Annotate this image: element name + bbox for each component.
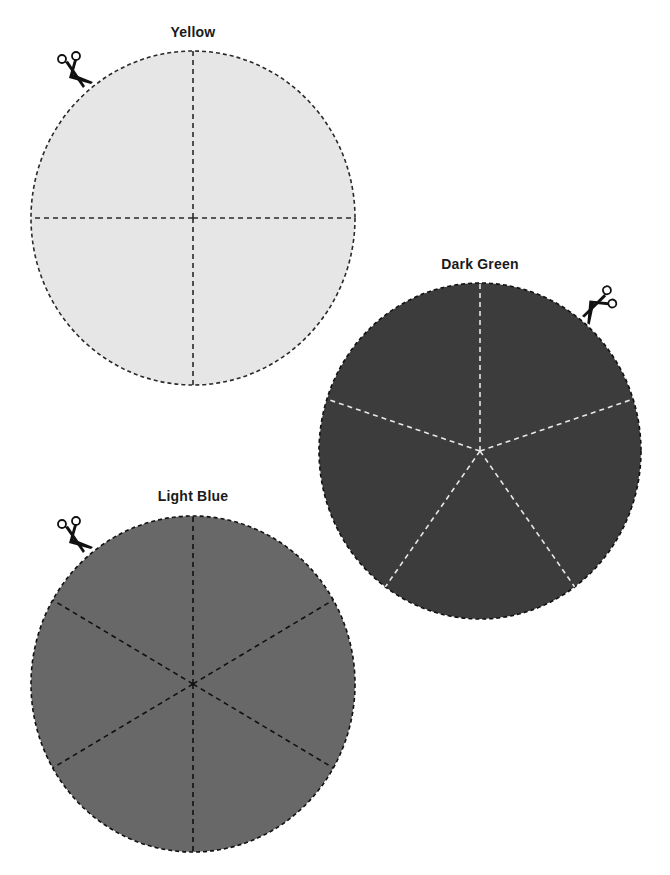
yellow-label: Yellow	[171, 24, 216, 40]
scissors-icon	[58, 52, 93, 88]
scissors-icon	[58, 517, 93, 553]
dark-green-circle-cutout	[319, 283, 641, 619]
yellow-circle-cutout	[31, 51, 355, 385]
light-blue-label: Light Blue	[158, 488, 228, 504]
cutout-sheet	[0, 0, 670, 875]
scissors-icon	[578, 285, 620, 326]
light-blue-circle-cutout	[31, 516, 355, 852]
dark-green-label: Dark Green	[441, 256, 518, 272]
